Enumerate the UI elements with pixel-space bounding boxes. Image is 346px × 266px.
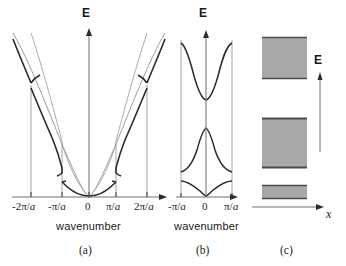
- tick-label-4-text: 2π/: [134, 200, 148, 212]
- panel-c-energy-axis-arrowhead: [318, 72, 323, 80]
- panel-c-band-2-fill: [262, 118, 307, 168]
- tick-label-1-var: a: [60, 200, 66, 212]
- band-1-flat-right: [112, 181, 116, 182]
- panel-b-caption: (b): [196, 245, 209, 257]
- tick-label-4-var: a: [148, 200, 154, 212]
- panel-a-energy-axis-label: E: [82, 7, 90, 19]
- panel-b-tick-label-2-var: a: [233, 200, 239, 212]
- panel-b-tick-label-0-text: -π/: [168, 200, 180, 212]
- panel-b-tick-label-1: 0: [202, 201, 208, 212]
- panel-c-caption: (c): [280, 245, 293, 257]
- panel-a-tick-label-1: -π/a: [48, 201, 66, 212]
- panel-b-tick-label-2-text: π/: [224, 200, 233, 212]
- band-3-right-curve: [147, 39, 165, 83]
- panel-a-tick-label-0: -2π/a: [12, 201, 35, 212]
- panel-a-wavenumber-label: wavenumber: [56, 221, 121, 232]
- panel-a-tick-label-2: 0: [85, 201, 91, 212]
- tick-label-3-text: π/: [106, 200, 115, 212]
- tick-label-0-var: a: [30, 200, 36, 212]
- tick-label-3-var: a: [115, 200, 121, 212]
- panel-a-tick-label-4: 2π/a: [134, 201, 154, 212]
- panel-a-wavenumber-axis-arrowhead: [159, 194, 167, 200]
- band-3-left-curve: [13, 39, 31, 83]
- band-1-flat-left: [62, 181, 66, 182]
- panel-a-plot: [0, 0, 346, 266]
- panel-b-tick-label-0-var: a: [180, 200, 186, 212]
- panel-c-x-axis-label: x: [326, 208, 331, 220]
- panel-c-energy-axis-label: E: [314, 54, 322, 66]
- band-3-left-flat: [31, 75, 40, 83]
- panel-c-band-1-fill: [262, 185, 307, 199]
- panel-b-energy-axis-label: E: [199, 7, 207, 19]
- band-3-right-flat: [138, 75, 147, 83]
- panel-a-tick-label-3: π/a: [106, 201, 120, 212]
- panel-b-energy-axis-arrowhead: [203, 30, 209, 38]
- tick-label-1-text: -π/: [48, 200, 60, 212]
- tick-label-0-text: -2π/: [12, 200, 30, 212]
- panel-a-caption: (a): [79, 245, 92, 257]
- panel-b-tick-label-0: -π/a: [168, 201, 186, 212]
- panel-c-band-3-fill: [262, 37, 307, 79]
- panel-c-x-axis-arrowhead: [316, 204, 324, 210]
- panel-a-energy-axis-arrowhead: [86, 28, 92, 36]
- band-structure-figure: E -2π/a -π/a 0 π/a 2π/a wavenumber (a) E…: [0, 0, 346, 266]
- panel-b-wavenumber-label: wavenumber: [174, 221, 239, 232]
- panel-b-tick-label-2: π/a: [224, 201, 238, 212]
